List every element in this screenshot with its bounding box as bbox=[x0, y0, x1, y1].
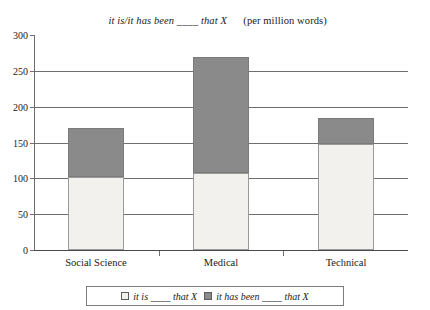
x-axis-label-social-science: Social Science bbox=[65, 257, 127, 268]
chart-title-main: it is/it has been ____ that X bbox=[109, 15, 227, 26]
bar-segment-it-has-been bbox=[193, 57, 249, 173]
y-tick-100 bbox=[30, 178, 34, 179]
x-tick-1 bbox=[159, 251, 160, 256]
y-axis-label-200: 200 bbox=[13, 102, 28, 113]
legend-swatch-dark bbox=[204, 292, 212, 300]
y-axis-label-100: 100 bbox=[13, 173, 28, 184]
chart-title: it is/it has been ____ that X (per milli… bbox=[0, 0, 430, 28]
x-tick-2 bbox=[283, 251, 284, 256]
bar-segment-it-has-been bbox=[68, 128, 124, 177]
y-tick-250 bbox=[30, 71, 34, 72]
y-tick-200 bbox=[30, 107, 34, 108]
plot-area: 050100150200250300 Social ScienceMedical… bbox=[34, 35, 408, 250]
gridline-0 bbox=[34, 250, 408, 251]
y-axis-label-50: 50 bbox=[18, 209, 28, 220]
chart-legend: it is ____ that Xit has been ____ that X bbox=[86, 286, 344, 306]
y-tick-50 bbox=[30, 214, 34, 215]
y-axis-label-0: 0 bbox=[23, 245, 28, 256]
y-axis-label-250: 250 bbox=[13, 66, 28, 77]
chart-title-note: (per million words) bbox=[243, 15, 327, 26]
legend-entry-2: it has been ____ that X bbox=[204, 291, 309, 302]
legend-label-2: it has been ____ that X bbox=[216, 291, 309, 302]
x-axis-label-medical: Medical bbox=[204, 257, 238, 268]
y-axis-label-150: 150 bbox=[13, 138, 28, 149]
legend-entry-1: it is ____ that X bbox=[121, 291, 197, 302]
x-axis-label-technical: Technical bbox=[326, 257, 367, 268]
bar-segment-it-has-been bbox=[318, 118, 374, 144]
legend-label-1: it is ____ that X bbox=[133, 291, 197, 302]
y-axis-label-300: 300 bbox=[13, 30, 28, 41]
bar-technical bbox=[318, 35, 374, 250]
bar-medical bbox=[193, 35, 249, 250]
legend-swatch-light bbox=[121, 292, 129, 300]
bar-segment-it-is bbox=[68, 177, 124, 250]
bar-social-science bbox=[68, 35, 124, 250]
y-tick-0 bbox=[30, 250, 34, 251]
bar-segment-it-is bbox=[193, 173, 249, 250]
bar-segment-it-is bbox=[318, 144, 374, 250]
y-tick-150 bbox=[30, 143, 34, 144]
y-tick-300 bbox=[30, 35, 34, 36]
